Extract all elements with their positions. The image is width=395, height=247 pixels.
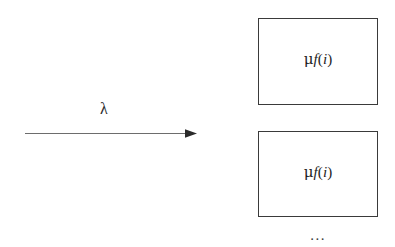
server-box-1: μf(i): [258, 18, 378, 105]
queueing-diagram: λ μf(i) μf(i) ...: [0, 0, 395, 247]
arrow-shaft-icon: [25, 126, 197, 142]
server-box-2-label: μf(i): [304, 165, 333, 180]
server-box-1-label: μf(i): [304, 52, 333, 67]
server-box-2: μf(i): [258, 131, 378, 217]
close-paren: ): [327, 51, 332, 67]
mu-symbol: μ: [304, 163, 314, 181]
arrow-label-lambda: λ: [92, 101, 116, 117]
continuation-ellipsis: ...: [296, 228, 340, 243]
mu-symbol: μ: [304, 50, 314, 68]
arrival-arrow: [25, 126, 197, 142]
close-paren: ): [327, 164, 332, 180]
